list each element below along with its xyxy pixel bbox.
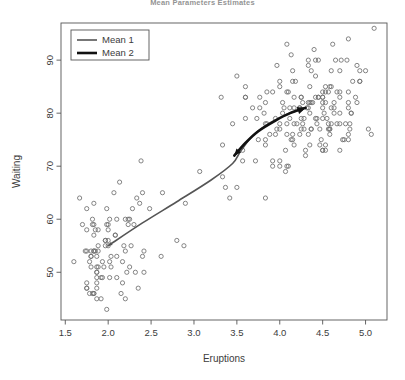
data-point bbox=[283, 148, 287, 152]
data-point bbox=[346, 138, 350, 142]
data-point bbox=[335, 122, 339, 126]
data-point bbox=[288, 106, 292, 110]
data-point bbox=[332, 100, 336, 104]
data-point bbox=[80, 222, 84, 226]
data-point bbox=[293, 79, 297, 83]
data-point bbox=[283, 169, 287, 173]
data-point bbox=[328, 132, 332, 136]
data-point bbox=[331, 42, 335, 46]
legend-label-2: Mean 2 bbox=[102, 47, 134, 58]
data-point bbox=[289, 53, 293, 57]
data-point bbox=[292, 143, 296, 147]
data-point bbox=[120, 281, 124, 285]
data-point bbox=[182, 244, 186, 248]
data-point bbox=[115, 275, 119, 279]
data-point bbox=[120, 260, 124, 264]
data-point bbox=[140, 254, 144, 258]
data-point bbox=[109, 254, 113, 258]
data-point bbox=[183, 201, 187, 205]
data-point bbox=[129, 244, 133, 248]
data-point bbox=[160, 191, 164, 195]
data-point bbox=[271, 164, 275, 168]
data-point bbox=[78, 196, 82, 200]
data-point bbox=[95, 275, 99, 279]
data-point bbox=[89, 265, 93, 269]
data-point bbox=[318, 143, 322, 147]
data-point bbox=[285, 132, 289, 136]
data-point bbox=[96, 244, 100, 248]
data-point bbox=[358, 79, 362, 83]
x-axis-label: Eruptions bbox=[203, 353, 245, 364]
y-tick-label: 90 bbox=[44, 55, 55, 66]
data-point bbox=[322, 111, 326, 115]
data-point bbox=[243, 95, 247, 99]
data-point bbox=[95, 254, 99, 258]
data-point bbox=[306, 132, 310, 136]
data-point bbox=[243, 116, 247, 120]
data-point bbox=[348, 122, 352, 126]
data-point bbox=[125, 270, 129, 274]
data-point bbox=[262, 111, 266, 115]
data-point bbox=[139, 159, 143, 163]
data-point bbox=[115, 217, 119, 221]
data-point bbox=[329, 69, 333, 73]
data-point bbox=[309, 127, 313, 131]
data-point bbox=[112, 191, 116, 195]
data-point bbox=[346, 106, 350, 110]
data-point bbox=[108, 260, 112, 264]
data-point bbox=[285, 42, 289, 46]
data-point bbox=[106, 228, 110, 232]
data-point bbox=[298, 132, 302, 136]
data-point bbox=[343, 122, 347, 126]
data-point bbox=[132, 222, 136, 226]
data-point bbox=[301, 100, 305, 104]
data-point bbox=[142, 249, 146, 253]
x-tick-label: 4.5 bbox=[316, 327, 329, 338]
data-point bbox=[351, 79, 355, 83]
data-point bbox=[268, 132, 272, 136]
legend-label-1: Mean 1 bbox=[102, 34, 134, 45]
data-point bbox=[220, 175, 224, 179]
data-point bbox=[230, 122, 234, 126]
chart-root: Mean Parameters Estimates 1.52.02.53.03.… bbox=[0, 0, 405, 380]
data-point bbox=[89, 254, 93, 258]
data-point bbox=[338, 111, 342, 115]
data-point bbox=[275, 127, 279, 131]
y-tick-label: 50 bbox=[44, 267, 55, 278]
data-point bbox=[109, 265, 113, 269]
data-point bbox=[313, 58, 317, 62]
data-point bbox=[303, 148, 307, 152]
data-points bbox=[72, 26, 376, 311]
data-point bbox=[95, 297, 99, 301]
data-point bbox=[123, 249, 127, 253]
data-point bbox=[275, 63, 279, 67]
data-point bbox=[122, 244, 126, 248]
data-point bbox=[133, 270, 137, 274]
scatter-plot: 1.52.02.53.03.54.04.55.05060708090Erupti… bbox=[0, 0, 405, 380]
data-point bbox=[243, 85, 247, 89]
data-point bbox=[346, 132, 350, 136]
data-point bbox=[291, 69, 295, 73]
data-point bbox=[108, 217, 112, 221]
data-point bbox=[136, 286, 140, 290]
data-point bbox=[302, 116, 306, 120]
data-point bbox=[321, 95, 325, 99]
data-point bbox=[308, 143, 312, 147]
y-axis-label: Waiting bbox=[11, 155, 22, 188]
data-point bbox=[198, 169, 202, 173]
data-point bbox=[345, 58, 349, 62]
data-point bbox=[265, 90, 269, 94]
data-point bbox=[353, 95, 357, 99]
data-point bbox=[105, 207, 109, 211]
data-point bbox=[95, 286, 99, 290]
data-point bbox=[280, 100, 284, 104]
data-point bbox=[95, 270, 99, 274]
data-point bbox=[292, 106, 296, 110]
data-point bbox=[332, 111, 336, 115]
data-point bbox=[85, 207, 89, 211]
data-point bbox=[323, 85, 327, 89]
data-point bbox=[159, 254, 163, 258]
mean-line-mean-2 bbox=[234, 108, 305, 156]
data-point bbox=[241, 159, 245, 163]
data-point bbox=[338, 95, 342, 99]
